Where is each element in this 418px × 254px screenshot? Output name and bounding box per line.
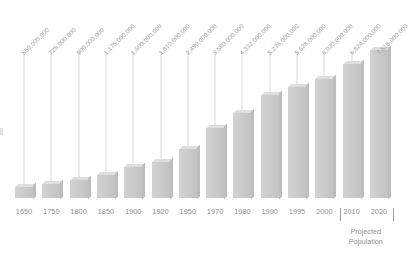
- bar-1750: [42, 184, 60, 198]
- projected-caption-line1: Projected: [334, 227, 398, 237]
- bar-front-face: [233, 113, 251, 198]
- bar-side-face: [197, 144, 200, 199]
- bar-front-face: [152, 162, 170, 198]
- year-label-1990: 1990: [255, 207, 285, 216]
- bar-front-face: [370, 50, 388, 198]
- bar-front-face: [179, 149, 197, 198]
- bar-1920: [152, 162, 170, 198]
- bar-side-face: [170, 158, 173, 200]
- leader-line-1750: [51, 52, 52, 182]
- bar-front-face: [124, 167, 142, 198]
- bar-1800: [70, 180, 88, 198]
- bar-front-face: [315, 79, 333, 198]
- projected-population-caption: Projected Population: [334, 227, 398, 246]
- bar-1900: [124, 167, 142, 198]
- year-label-2000: 2000: [309, 207, 339, 216]
- leader-line-1990: [269, 52, 270, 93]
- year-label-1650: 1650: [9, 207, 39, 216]
- projected-bracket: [340, 208, 394, 221]
- year-label-1920: 1920: [146, 207, 176, 216]
- left-edge-artifact: [0, 128, 3, 135]
- bar-side-face: [33, 183, 36, 200]
- bar-1980: [233, 113, 251, 198]
- bar-front-face: [70, 180, 88, 198]
- year-label-1850: 1850: [91, 207, 121, 216]
- leader-line-1970: [215, 52, 216, 126]
- year-label-1900: 1900: [118, 207, 148, 216]
- leader-line-1995: [297, 52, 298, 85]
- bar-1850: [97, 175, 115, 198]
- bar-front-face: [261, 95, 279, 198]
- bar-2020: [370, 50, 388, 198]
- value-label-1800: 900,000,000: [75, 26, 105, 56]
- bar-front-face: [42, 184, 60, 198]
- bar-side-face: [88, 176, 91, 200]
- bar-side-face: [361, 59, 364, 199]
- leader-line-1900: [133, 52, 134, 165]
- bar-side-face: [279, 90, 282, 199]
- world-population-bar-chart: 550,000,000725,000,000900,000,0001,175,0…: [0, 0, 418, 254]
- bar-1650: [15, 187, 33, 198]
- bar-front-face: [288, 87, 306, 198]
- bar-1950: [179, 149, 197, 198]
- bar-front-face: [343, 64, 361, 198]
- bar-2010: [343, 64, 361, 198]
- bar-side-face: [388, 46, 391, 200]
- bar-1990: [261, 95, 279, 198]
- year-label-1750: 1750: [36, 207, 66, 216]
- bar-1970: [206, 128, 224, 198]
- bar-front-face: [97, 175, 115, 198]
- bar-front-face: [15, 187, 33, 198]
- value-label-1650: 550,000,000: [20, 26, 50, 56]
- year-label-1980: 1980: [227, 207, 257, 216]
- bar-side-face: [251, 108, 254, 199]
- leader-line-1650: [24, 52, 25, 185]
- bar-side-face: [224, 123, 227, 199]
- leader-line-1920: [160, 52, 161, 160]
- bar-1995: [288, 87, 306, 198]
- bar-2000: [315, 79, 333, 198]
- leader-line-1980: [242, 52, 243, 111]
- year-label-1800: 1800: [64, 207, 94, 216]
- bar-side-face: [333, 75, 336, 200]
- leader-line-1850: [105, 52, 106, 173]
- year-label-1970: 1970: [200, 207, 230, 216]
- projected-caption-line2: Population: [334, 237, 398, 247]
- value-label-1750: 725,000,000: [47, 26, 77, 56]
- bar-side-face: [306, 83, 309, 200]
- bar-side-face: [60, 179, 63, 199]
- leader-line-1950: [187, 52, 188, 147]
- bar-front-face: [206, 128, 224, 198]
- year-label-1995: 1995: [282, 207, 312, 216]
- year-label-1950: 1950: [173, 207, 203, 216]
- leader-line-1800: [78, 52, 79, 178]
- bar-side-face: [115, 170, 118, 199]
- bar-side-face: [142, 162, 145, 199]
